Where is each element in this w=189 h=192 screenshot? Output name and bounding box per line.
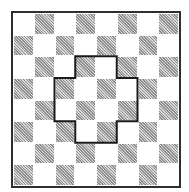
light-square bbox=[117, 78, 138, 100]
dark-square bbox=[96, 121, 117, 143]
dark-square bbox=[55, 35, 76, 57]
dark-square bbox=[138, 121, 159, 143]
dark-square bbox=[34, 143, 55, 165]
dark-square bbox=[75, 13, 96, 35]
dark-square bbox=[13, 35, 34, 57]
light-square bbox=[158, 78, 179, 100]
dark-square bbox=[34, 56, 55, 78]
light-square bbox=[34, 78, 55, 100]
dark-square bbox=[138, 164, 159, 186]
light-square bbox=[34, 164, 55, 186]
dark-square bbox=[55, 78, 76, 100]
light-square bbox=[55, 143, 76, 165]
dark-square bbox=[96, 35, 117, 57]
dark-square bbox=[138, 35, 159, 57]
checkerboard bbox=[11, 11, 181, 188]
dark-square bbox=[158, 100, 179, 122]
dark-square bbox=[13, 121, 34, 143]
light-square bbox=[75, 35, 96, 57]
light-square bbox=[96, 100, 117, 122]
dark-square bbox=[158, 56, 179, 78]
dark-square bbox=[34, 13, 55, 35]
light-square bbox=[158, 35, 179, 57]
light-square bbox=[75, 121, 96, 143]
dark-square bbox=[55, 121, 76, 143]
light-square bbox=[117, 164, 138, 186]
light-square bbox=[96, 143, 117, 165]
dark-square bbox=[117, 56, 138, 78]
light-square bbox=[158, 164, 179, 186]
dark-square bbox=[138, 78, 159, 100]
light-square bbox=[13, 100, 34, 122]
dark-square bbox=[34, 100, 55, 122]
light-square bbox=[34, 121, 55, 143]
light-square bbox=[96, 13, 117, 35]
checkerboard-grid bbox=[13, 13, 179, 186]
light-square bbox=[75, 164, 96, 186]
dark-square bbox=[158, 13, 179, 35]
light-square bbox=[55, 13, 76, 35]
dark-square bbox=[55, 164, 76, 186]
light-square bbox=[138, 143, 159, 165]
dark-square bbox=[158, 143, 179, 165]
dark-square bbox=[117, 13, 138, 35]
light-square bbox=[13, 143, 34, 165]
dark-square bbox=[117, 143, 138, 165]
light-square bbox=[55, 56, 76, 78]
light-square bbox=[13, 56, 34, 78]
light-square bbox=[96, 56, 117, 78]
dark-square bbox=[75, 100, 96, 122]
light-square bbox=[138, 13, 159, 35]
dark-square bbox=[13, 164, 34, 186]
dark-square bbox=[117, 100, 138, 122]
light-square bbox=[75, 78, 96, 100]
light-square bbox=[138, 100, 159, 122]
light-square bbox=[34, 35, 55, 57]
light-square bbox=[117, 35, 138, 57]
light-square bbox=[158, 121, 179, 143]
dark-square bbox=[96, 164, 117, 186]
light-square bbox=[138, 56, 159, 78]
dark-square bbox=[75, 143, 96, 165]
dark-square bbox=[13, 78, 34, 100]
light-square bbox=[13, 13, 34, 35]
dark-square bbox=[96, 78, 117, 100]
light-square bbox=[117, 121, 138, 143]
light-square bbox=[55, 100, 76, 122]
dark-square bbox=[75, 56, 96, 78]
